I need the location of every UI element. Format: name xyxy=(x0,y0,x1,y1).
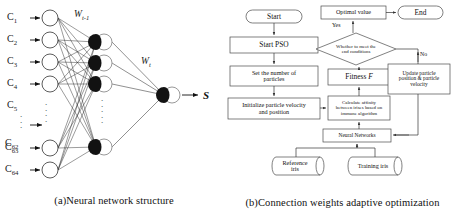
hidden-column-ellipsis: ..... xyxy=(101,96,103,124)
node-training-iris xyxy=(348,157,402,175)
node-decision-end-conditions xyxy=(316,33,396,65)
output-label-s: S xyxy=(203,89,209,101)
panel-a-caption: (a)Neural network structure xyxy=(0,195,228,206)
input-label-c64: C64 xyxy=(5,164,18,177)
edge-update-loopback xyxy=(395,94,418,135)
input-column-ellipsis: ... xyxy=(20,112,22,129)
weight-label-wt-1: Wt-1 xyxy=(74,10,89,21)
node-set-particles xyxy=(230,66,318,86)
node-reference-iris xyxy=(272,157,324,175)
node-optimal-value xyxy=(321,6,386,19)
input-layer-nodes xyxy=(42,10,58,178)
node-fitness xyxy=(328,69,390,85)
output-layer-node xyxy=(156,87,180,103)
input-arrows xyxy=(30,18,42,170)
node-start xyxy=(246,10,302,23)
figure-root: C1 C2 C3 C4 C5 C62 C63 C64 ... ..... ...… xyxy=(0,0,457,209)
input-label-c2: C2 xyxy=(7,34,17,47)
weight-label-wt: Wt xyxy=(141,57,151,68)
edges-iris-to-neuralnet xyxy=(296,144,375,157)
edge-label-no: No xyxy=(420,51,427,57)
node-update-particle xyxy=(388,64,450,94)
node-init-particles xyxy=(228,98,320,119)
edge-decision-no-to-update xyxy=(396,49,418,62)
input-label-c4: C4 xyxy=(7,78,17,91)
flowchart-graphic xyxy=(228,0,457,190)
edge-label-yes: Yes xyxy=(332,22,340,28)
panel-connection-weights-optimization: Start Start PSO Set the number of partic… xyxy=(228,0,457,209)
panel-b-caption: (b)Connection weights adaptive optimizat… xyxy=(228,197,457,208)
panel-neural-network-structure: C1 C2 C3 C4 C5 C62 C63 C64 ... ..... ...… xyxy=(0,0,228,209)
node-start-pso xyxy=(230,37,318,53)
neural-network-graphic xyxy=(0,0,228,185)
input-label-c1: C1 xyxy=(7,12,17,25)
input-label-c63: C63 xyxy=(5,142,18,155)
node-neural-networks xyxy=(323,129,391,142)
middle-column-ellipsis: .... xyxy=(45,100,47,122)
input-label-c5: C5 xyxy=(7,100,17,113)
node-end xyxy=(398,6,443,19)
node-calc-affinity xyxy=(328,96,390,120)
input-label-c3: C3 xyxy=(7,56,17,69)
